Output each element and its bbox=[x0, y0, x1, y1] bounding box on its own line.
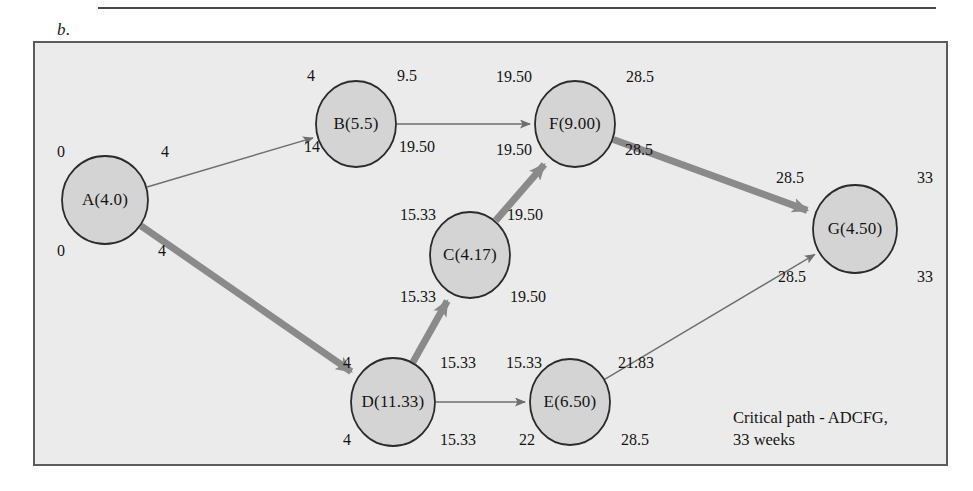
node-label-e: E(6.50) bbox=[544, 392, 597, 412]
node-label-f: F(9.00) bbox=[549, 114, 601, 134]
earliest-finish-a: 4 bbox=[161, 143, 169, 161]
earliest-finish-d: 15.33 bbox=[440, 354, 476, 372]
latest-start-d: 4 bbox=[343, 431, 351, 449]
edge-a-to-d bbox=[141, 226, 351, 372]
earliest-finish-e: 21.83 bbox=[618, 354, 654, 372]
edge-a-to-b bbox=[147, 138, 313, 187]
caption-line-2: 33 weeks bbox=[733, 429, 888, 451]
node-label-a: A(4.0) bbox=[82, 190, 128, 210]
latest-start-c: 15.33 bbox=[400, 288, 436, 306]
earliest-start-b: 4 bbox=[307, 67, 315, 85]
node-label-d: D(11.33) bbox=[362, 392, 425, 412]
latest-start-f: 19.50 bbox=[496, 141, 532, 159]
latest-finish-d: 15.33 bbox=[440, 431, 476, 449]
earliest-start-d: 4 bbox=[343, 354, 351, 372]
earliest-finish-c: 19.50 bbox=[507, 206, 543, 224]
earliest-finish-g: 33 bbox=[917, 169, 933, 187]
latest-finish-c: 19.50 bbox=[510, 288, 546, 306]
critical-path-caption: Critical path - ADCFG, 33 weeks bbox=[733, 407, 888, 451]
earliest-finish-b: 9.5 bbox=[397, 67, 417, 85]
node-label-g: G(4.50) bbox=[828, 219, 883, 239]
latest-finish-e: 28.5 bbox=[621, 431, 649, 449]
earliest-finish-f: 28.5 bbox=[626, 68, 654, 86]
latest-finish-g: 33 bbox=[917, 268, 933, 286]
earliest-start-e: 15.33 bbox=[506, 354, 542, 372]
latest-start-g: 28.5 bbox=[778, 268, 806, 286]
node-label-b: B(5.5) bbox=[333, 114, 378, 134]
edge-d-to-c bbox=[413, 301, 447, 362]
latest-finish-f: 28.5 bbox=[625, 141, 653, 159]
latest-start-b: 14 bbox=[304, 138, 320, 156]
latest-finish-a: 4 bbox=[158, 242, 166, 260]
earliest-start-g: 28.5 bbox=[776, 169, 804, 187]
earliest-start-a: 0 bbox=[57, 143, 65, 161]
caption-line-1: Critical path - ADCFG, bbox=[733, 407, 888, 429]
latest-finish-b: 19.50 bbox=[399, 138, 435, 156]
latest-start-a: 0 bbox=[57, 242, 65, 260]
earliest-start-c: 15.33 bbox=[400, 206, 436, 224]
latest-start-e: 22 bbox=[519, 431, 535, 449]
figure-page: b. A(4.0)0404B(5.5)49.51419.50C(4.17)15.… bbox=[0, 0, 973, 491]
node-label-c: C(4.17) bbox=[443, 245, 497, 265]
earliest-start-f: 19.50 bbox=[496, 68, 532, 86]
